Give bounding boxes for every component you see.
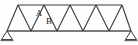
- member-label-b: B: [46, 16, 52, 26]
- member-label-a: A: [36, 8, 43, 18]
- diagonal-member-7: [83, 5, 96, 31]
- diagonal-member-2: [18, 5, 31, 31]
- diagonal-member-5: [57, 5, 70, 31]
- diagonal-member-9: [109, 5, 122, 31]
- diagonal-member-6: [70, 5, 83, 31]
- diagonal-member-8: [96, 5, 109, 31]
- diagonal-member-1: [7, 5, 18, 31]
- pin-support-right-triangle: [126, 31, 137, 40]
- truss-diagram-container: A B: [0, 0, 138, 45]
- diagonal-member-10: [122, 5, 131, 31]
- pin-support-left-triangle: [2, 31, 13, 40]
- truss-diagram-svg: A B: [0, 0, 138, 45]
